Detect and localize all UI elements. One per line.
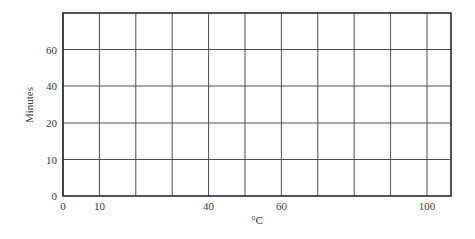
- x-tick-label: 60: [276, 200, 288, 212]
- grid: [63, 13, 451, 196]
- x-tick-label: 40: [203, 200, 215, 212]
- x-axis-label: °C: [251, 214, 263, 226]
- chart-canvas: 0104060100 010204060 °C Minutes: [0, 0, 475, 239]
- y-tick-label: 20: [46, 117, 58, 129]
- y-tick-label: 40: [46, 80, 58, 92]
- plot-frame: [63, 13, 451, 196]
- y-axis-label: Minutes: [23, 87, 35, 123]
- y-axis-ticks: 010204060: [46, 44, 58, 203]
- y-tick-label: 10: [46, 154, 58, 166]
- x-axis-ticks: 0104060100: [60, 200, 435, 212]
- x-tick-label: 0: [60, 200, 66, 212]
- y-tick-label: 0: [52, 190, 58, 202]
- x-tick-label: 10: [94, 200, 106, 212]
- x-tick-label: 100: [419, 200, 436, 212]
- y-tick-label: 60: [46, 44, 58, 56]
